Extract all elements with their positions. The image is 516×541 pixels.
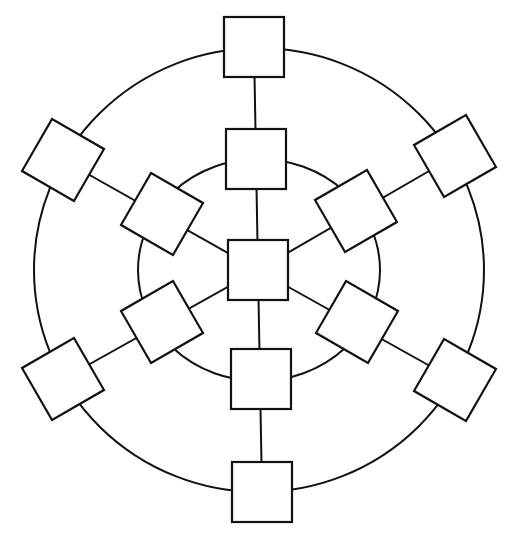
hub-node <box>228 240 288 300</box>
spoke-top-inner-node <box>226 129 286 189</box>
radial-diagram <box>0 0 516 541</box>
spoke-lower-right-inner-node <box>316 281 398 363</box>
spoke-upper-left-outer-node <box>22 119 104 201</box>
spoke-bottom-outer-node <box>232 462 292 522</box>
spoke-lower-left-outer-node <box>22 338 104 420</box>
spoke-upper-left-inner-node <box>121 173 203 255</box>
spoke-bottom-inner-node <box>231 349 291 409</box>
spoke-lower-right-outer-node <box>414 339 496 421</box>
spoke-upper-right-inner-node <box>315 170 397 252</box>
spoke-lower-left-inner-node <box>121 281 203 363</box>
spoke-upper-right-outer-node <box>414 115 496 197</box>
nodes <box>22 17 496 522</box>
spoke-top-outer-node <box>224 17 284 77</box>
